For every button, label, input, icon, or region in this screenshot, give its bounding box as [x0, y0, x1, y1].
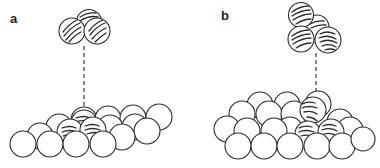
surface-a — [10, 104, 172, 157]
panel-b: b — [190, 0, 380, 168]
panel-b-drawing — [190, 0, 380, 168]
cluster-a — [59, 10, 110, 45]
panel-a-drawing — [0, 0, 190, 168]
panel-a: a — [0, 0, 190, 168]
surface-b — [214, 91, 375, 159]
cluster-b — [288, 3, 341, 54]
